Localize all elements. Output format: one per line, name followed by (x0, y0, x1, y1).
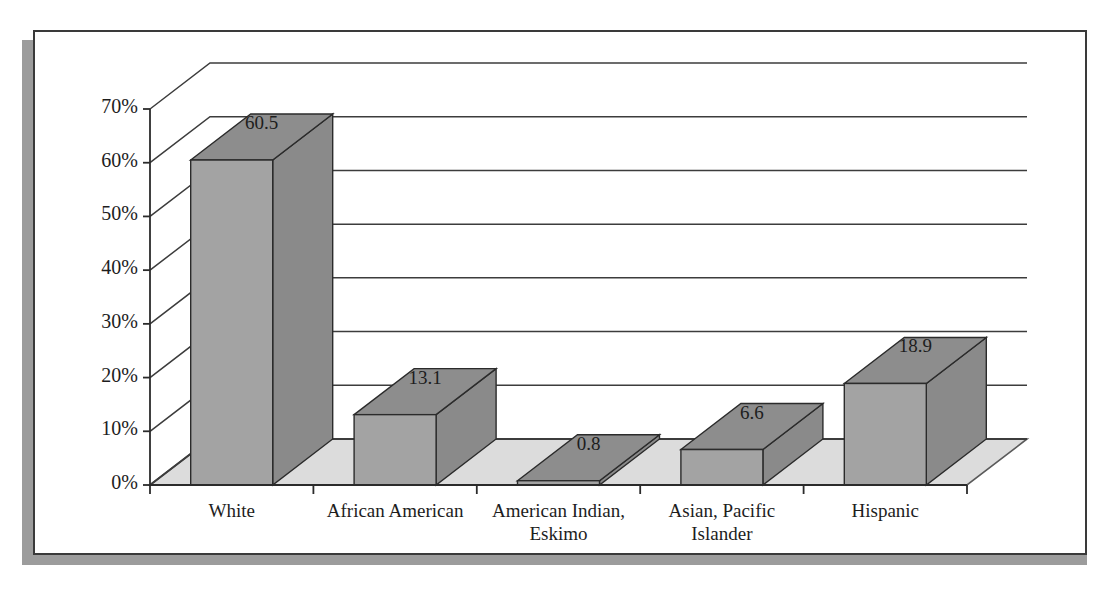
y-axis-label-70pct: 70% (101, 95, 138, 118)
y-axis-label-20pct: 20% (101, 364, 138, 387)
chart-screenshot: 0%10%20%30%40%50%60%70%WhiteAfrican Amer… (0, 0, 1114, 592)
y-axis-label-30pct: 30% (101, 310, 138, 333)
bar-value-label-2: 0.8 (538, 433, 640, 455)
bar-0[interactable] (191, 114, 333, 485)
bar-value-label-1: 13.1 (374, 367, 476, 389)
x-axis-category-label-4: Hispanic (804, 499, 967, 522)
bar-value-label-4: 18.9 (864, 335, 966, 357)
y-axis-label-40pct: 40% (101, 256, 138, 279)
y-axis-label-10pct: 10% (101, 417, 138, 440)
gridline-70pct (150, 63, 1027, 109)
x-axis-category-label-0: White (150, 499, 313, 522)
bar-value-label-0: 60.5 (211, 112, 313, 134)
y-axis-label-0pct: 0% (111, 471, 138, 494)
y-axis-label-50pct: 50% (101, 202, 138, 225)
chart-frame: 0%10%20%30%40%50%60%70%WhiteAfrican Amer… (33, 30, 1087, 555)
bar-value-label-3: 6.6 (701, 402, 803, 424)
x-axis-category-label-1: African American (313, 499, 476, 522)
chart-plot-area (35, 32, 1085, 553)
y-axis-label-60pct: 60% (101, 149, 138, 172)
x-axis-category-label-3: Asian, PacificIslander (640, 499, 803, 545)
x-axis-category-label-2: American Indian,Eskimo (477, 499, 640, 545)
